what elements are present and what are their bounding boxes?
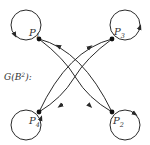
node-p2 [110, 110, 115, 115]
loop-arrow-icon [40, 118, 41, 121]
node-p3 [110, 37, 115, 42]
loop-arrow-icon [139, 27, 140, 30]
edge-p3-p4 [39, 39, 112, 112]
node-label-p2: P2 [112, 115, 124, 129]
node-label-p4: P4 [28, 115, 40, 129]
node-label-p3: P3 [113, 26, 125, 40]
arrow-icon [88, 104, 90, 106]
graph-label: G(B2): [4, 71, 32, 82]
node-p4 [37, 110, 42, 115]
arrow-icon [60, 104, 63, 106]
graph-canvas: P1 P3 P4 P2 G(B2): [0, 0, 150, 145]
